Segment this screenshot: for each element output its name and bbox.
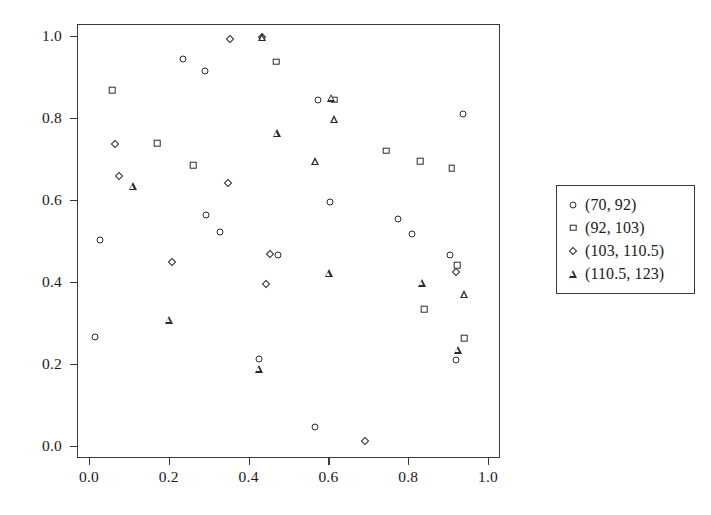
data-point (261, 280, 269, 288)
legend-item[interactable]: (92, 103) (566, 216, 685, 239)
data-point (275, 252, 282, 259)
y-axis-tick-label: 0.8 (42, 109, 62, 127)
data-point (258, 33, 266, 41)
data-point (168, 257, 176, 265)
x-axis-tick (408, 458, 409, 465)
x-axis-tick (328, 458, 329, 465)
data-point (273, 129, 281, 137)
y-axis-tick-label: 0.2 (42, 355, 62, 373)
data-point (460, 290, 468, 298)
legend-marker-swatch (566, 267, 580, 281)
y-axis-tick-label: 1.0 (42, 27, 62, 45)
data-point (203, 212, 210, 219)
data-point (154, 140, 161, 147)
circle-marker-icon (570, 201, 577, 208)
legend-item[interactable]: (110.5, 123) (566, 262, 685, 285)
legend-item-label: (110.5, 123) (585, 265, 664, 283)
data-point (312, 424, 319, 431)
data-point (114, 171, 122, 179)
x-axis-tick (488, 458, 489, 465)
data-point (448, 165, 455, 172)
data-point (460, 111, 467, 118)
legend-marker-swatch (566, 198, 580, 212)
data-point (454, 346, 462, 354)
data-point (97, 236, 104, 243)
legend-item[interactable]: (103, 110.5) (566, 239, 685, 262)
data-point (421, 306, 428, 313)
data-point (190, 162, 197, 169)
legend-item[interactable]: (70, 92) (566, 193, 685, 216)
triangle-marker-icon (569, 270, 577, 278)
data-point (327, 199, 334, 206)
y-axis-tick (70, 446, 77, 447)
data-point (451, 268, 459, 276)
x-axis-tick-label: 0.0 (79, 468, 99, 486)
legend-marker-swatch (566, 221, 580, 235)
plot-area (77, 24, 500, 458)
legend-item-label: (92, 103) (585, 219, 645, 237)
data-point (311, 157, 319, 165)
y-axis-tick-label: 0.0 (42, 437, 62, 455)
data-point (129, 182, 137, 190)
data-point (408, 230, 415, 237)
data-point (226, 35, 234, 43)
data-point (255, 365, 263, 373)
x-axis-tick (169, 458, 170, 465)
data-point (266, 250, 274, 258)
scatter-plot-figure: 0.00.20.40.60.81.0 0.00.20.40.60.81.0 (7… (0, 0, 711, 515)
y-axis-tick (70, 118, 77, 119)
legend-item-label: (70, 92) (585, 196, 636, 214)
data-point (273, 59, 280, 66)
y-axis-tick (70, 282, 77, 283)
data-point (165, 316, 173, 324)
data-point (110, 140, 118, 148)
data-point (255, 355, 262, 362)
data-point (330, 115, 338, 123)
data-point (395, 215, 402, 222)
data-points-layer (78, 25, 499, 457)
legend: (70, 92)(92, 103)(103, 110.5)(110.5, 123… (556, 185, 695, 294)
data-point (453, 356, 460, 363)
y-axis-tick (70, 36, 77, 37)
x-axis-tick (249, 458, 250, 465)
square-marker-icon (570, 224, 577, 231)
data-point (109, 87, 116, 94)
y-axis-tick-label: 0.6 (42, 191, 62, 209)
x-axis-tick-label: 0.2 (159, 468, 179, 486)
x-axis-tick-label: 0.6 (318, 468, 338, 486)
x-axis-tick-label: 0.4 (239, 468, 259, 486)
data-point (325, 269, 333, 277)
data-point (315, 96, 322, 103)
data-point (461, 335, 468, 342)
y-axis-tick (70, 200, 77, 201)
y-axis-tick (70, 364, 77, 365)
data-point (217, 228, 224, 235)
x-axis-tick-label: 0.8 (398, 468, 418, 486)
data-point (224, 179, 232, 187)
diamond-marker-icon (569, 246, 577, 254)
data-point (418, 279, 426, 287)
legend-marker-swatch (566, 244, 580, 258)
data-point (91, 333, 98, 340)
y-axis-tick-label: 0.4 (42, 273, 62, 291)
data-point (179, 55, 186, 62)
data-point (446, 252, 453, 259)
data-point (201, 67, 208, 74)
data-point (383, 147, 390, 154)
legend-item-label: (103, 110.5) (585, 242, 664, 260)
data-point (327, 94, 335, 102)
x-axis-tick-label: 1.0 (478, 468, 498, 486)
x-axis-tick (89, 458, 90, 465)
data-point (360, 436, 368, 444)
data-point (417, 158, 424, 165)
